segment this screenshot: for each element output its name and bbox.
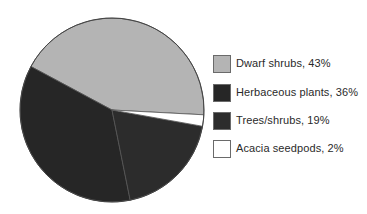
legend-swatch (213, 84, 231, 102)
legend-swatch (213, 140, 231, 158)
legend-label: Acacia seedpods, 2% (236, 142, 344, 154)
legend-swatch (213, 55, 231, 73)
pie-chart (0, 0, 367, 214)
legend-label: Trees/shrubs, 19% (236, 114, 330, 126)
legend-label: Dwarf shrubs, 43% (236, 57, 331, 69)
legend-swatch (213, 112, 231, 130)
legend-label: Herbaceous plants, 36% (236, 86, 358, 98)
